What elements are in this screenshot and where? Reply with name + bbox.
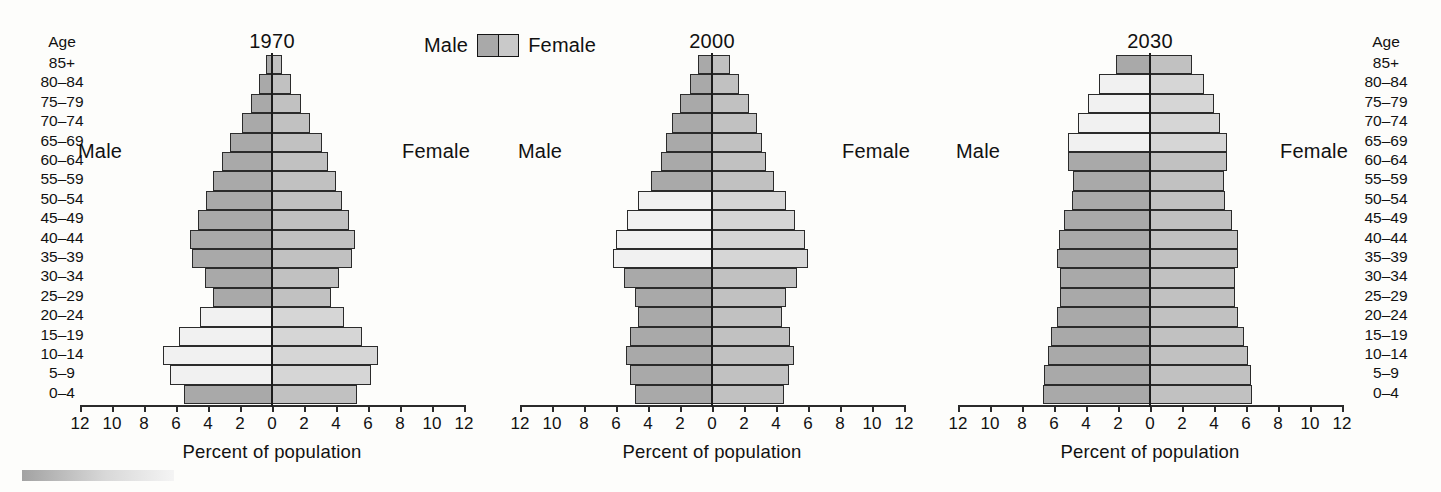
male-bar bbox=[1068, 152, 1150, 171]
female-bar bbox=[712, 191, 786, 210]
x-axis-tick-label: 10 bbox=[973, 414, 1007, 434]
x-axis-tick bbox=[1278, 405, 1280, 412]
x-axis-tick-label: 2 bbox=[1101, 414, 1135, 434]
male-bar bbox=[630, 365, 712, 384]
x-axis-tick bbox=[584, 405, 586, 412]
x-axis-tick bbox=[304, 405, 306, 412]
female-bar bbox=[272, 268, 339, 287]
female-bar bbox=[272, 288, 331, 307]
female-bar bbox=[712, 268, 797, 287]
male-bar bbox=[190, 230, 272, 249]
male-bar bbox=[1059, 230, 1150, 249]
male-bar bbox=[1088, 94, 1150, 113]
male-bar bbox=[1099, 74, 1150, 93]
x-axis-tick bbox=[744, 405, 746, 412]
x-axis-tick bbox=[958, 405, 960, 412]
panel-year-title: 2030 bbox=[934, 30, 1366, 53]
female-bar bbox=[712, 210, 795, 229]
x-axis-tick bbox=[400, 405, 402, 412]
panel-plot-area bbox=[934, 55, 1366, 405]
female-bar bbox=[712, 55, 730, 74]
male-bar bbox=[1057, 249, 1150, 268]
female-bar bbox=[1150, 55, 1192, 74]
female-bar bbox=[272, 171, 336, 190]
male-bar bbox=[213, 288, 272, 307]
female-bar bbox=[1150, 307, 1238, 326]
x-axis-tick-label: 8 bbox=[383, 414, 417, 434]
x-axis-tick bbox=[840, 405, 842, 412]
x-axis-tick bbox=[176, 405, 178, 412]
x-axis-tick-label: 12 bbox=[447, 414, 481, 434]
center-axis-line bbox=[1149, 53, 1151, 407]
female-bar bbox=[272, 74, 291, 93]
x-axis-title: Percent of population bbox=[934, 441, 1366, 463]
female-bar bbox=[712, 152, 766, 171]
male-bar bbox=[672, 113, 712, 132]
female-bar bbox=[1150, 268, 1235, 287]
x-axis-tick-label: 10 bbox=[535, 414, 569, 434]
female-bar bbox=[1150, 133, 1227, 152]
x-axis-tick-label: 6 bbox=[1229, 414, 1263, 434]
x-axis-tick-label: 10 bbox=[415, 414, 449, 434]
x-axis-tick-label: 4 bbox=[759, 414, 793, 434]
x-axis-tick-label: 2 bbox=[663, 414, 697, 434]
x-axis-tick-label: 6 bbox=[159, 414, 193, 434]
male-bar bbox=[613, 249, 712, 268]
male-bar bbox=[1060, 268, 1150, 287]
male-bar bbox=[1073, 171, 1150, 190]
male-bar bbox=[200, 307, 272, 326]
panel-plot-area bbox=[56, 55, 488, 405]
x-axis-tick bbox=[1342, 405, 1344, 412]
male-bar bbox=[616, 230, 712, 249]
female-bar bbox=[272, 94, 301, 113]
male-bar bbox=[222, 152, 272, 171]
x-axis-tick-label: 8 bbox=[1005, 414, 1039, 434]
panel-plot-area bbox=[496, 55, 928, 405]
x-axis-tick-label: 12 bbox=[941, 414, 975, 434]
male-bar bbox=[1060, 288, 1150, 307]
male-bar bbox=[626, 346, 712, 365]
x-axis-tick bbox=[1086, 405, 1088, 412]
male-bar bbox=[1078, 113, 1150, 132]
x-axis-tick bbox=[1118, 405, 1120, 412]
female-bar bbox=[712, 365, 789, 384]
x-axis-tick-label: 8 bbox=[1261, 414, 1295, 434]
female-bar bbox=[712, 230, 805, 249]
female-bar bbox=[272, 307, 344, 326]
x-axis-tick bbox=[520, 405, 522, 412]
x-axis-tick bbox=[872, 405, 874, 412]
male-bar bbox=[638, 307, 712, 326]
x-axis-tick-label: 8 bbox=[823, 414, 857, 434]
male-bar bbox=[690, 74, 712, 93]
x-axis-tick-label: 2 bbox=[1165, 414, 1199, 434]
x-axis-tick bbox=[1310, 405, 1312, 412]
x-axis-tick-label: 10 bbox=[1293, 414, 1327, 434]
female-bar bbox=[1150, 210, 1232, 229]
pyramid-panel-2000: 2000 Male Female Percent of population 1… bbox=[496, 30, 928, 450]
x-axis-tick-label: 2 bbox=[223, 414, 257, 434]
female-bar bbox=[712, 385, 784, 404]
female-bar bbox=[272, 152, 328, 171]
female-bar bbox=[712, 288, 786, 307]
male-bar bbox=[198, 210, 272, 229]
male-bar bbox=[1051, 327, 1150, 346]
x-axis-tick-label: 6 bbox=[599, 414, 633, 434]
x-axis-tick bbox=[552, 405, 554, 412]
female-bar bbox=[712, 133, 762, 152]
x-axis-tick-label: 0 bbox=[1133, 414, 1167, 434]
x-axis-tick-label: 10 bbox=[855, 414, 889, 434]
female-bar bbox=[272, 346, 378, 365]
x-axis-tick bbox=[1022, 405, 1024, 412]
female-bar bbox=[1150, 346, 1248, 365]
female-bar bbox=[272, 365, 371, 384]
male-bar bbox=[651, 171, 712, 190]
female-bar bbox=[1150, 365, 1251, 384]
female-bar bbox=[712, 113, 757, 132]
scan-artifact-bar bbox=[22, 470, 174, 481]
female-bar bbox=[272, 55, 282, 74]
x-axis-tick bbox=[648, 405, 650, 412]
x-axis-tick bbox=[1182, 405, 1184, 412]
male-bar bbox=[251, 94, 272, 113]
female-bar bbox=[712, 327, 790, 346]
male-bar bbox=[259, 74, 272, 93]
